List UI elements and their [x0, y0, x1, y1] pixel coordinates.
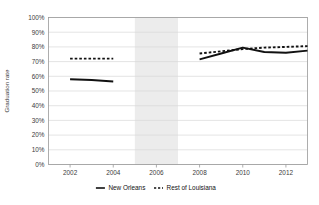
- y-tick-label: 100%: [28, 14, 45, 21]
- y-tick-label: 70%: [32, 58, 45, 65]
- legend-label: Rest of Louisiana: [167, 184, 217, 191]
- y-tick-label: 40%: [32, 102, 45, 109]
- x-tick-label: 2004: [106, 169, 121, 176]
- y-tick-label: 20%: [32, 131, 45, 138]
- x-tick-label: 2008: [192, 169, 207, 176]
- x-tick-label: 2012: [279, 169, 294, 176]
- chart-canvas: 0%10%20%30%40%50%60%70%80%90%100% 200220…: [0, 0, 319, 205]
- y-tick-label: 80%: [32, 43, 45, 50]
- graduation-rate-line-chart: 0%10%20%30%40%50%60%70%80%90%100% 200220…: [0, 0, 319, 205]
- x-tick-label: 2006: [149, 169, 164, 176]
- y-tick-label: 10%: [32, 146, 45, 153]
- y-tick-label: 50%: [32, 87, 45, 94]
- y-tick-label: 0%: [35, 161, 45, 168]
- y-tick-label: 60%: [32, 73, 45, 80]
- y-axis-title: Graduation rate: [3, 69, 10, 113]
- y-tick-label: 30%: [32, 117, 45, 124]
- y-tick-label: 90%: [32, 29, 45, 36]
- legend-label: New Orleans: [108, 184, 145, 191]
- x-tick-label: 2010: [236, 169, 251, 176]
- x-tick-label: 2002: [63, 169, 78, 176]
